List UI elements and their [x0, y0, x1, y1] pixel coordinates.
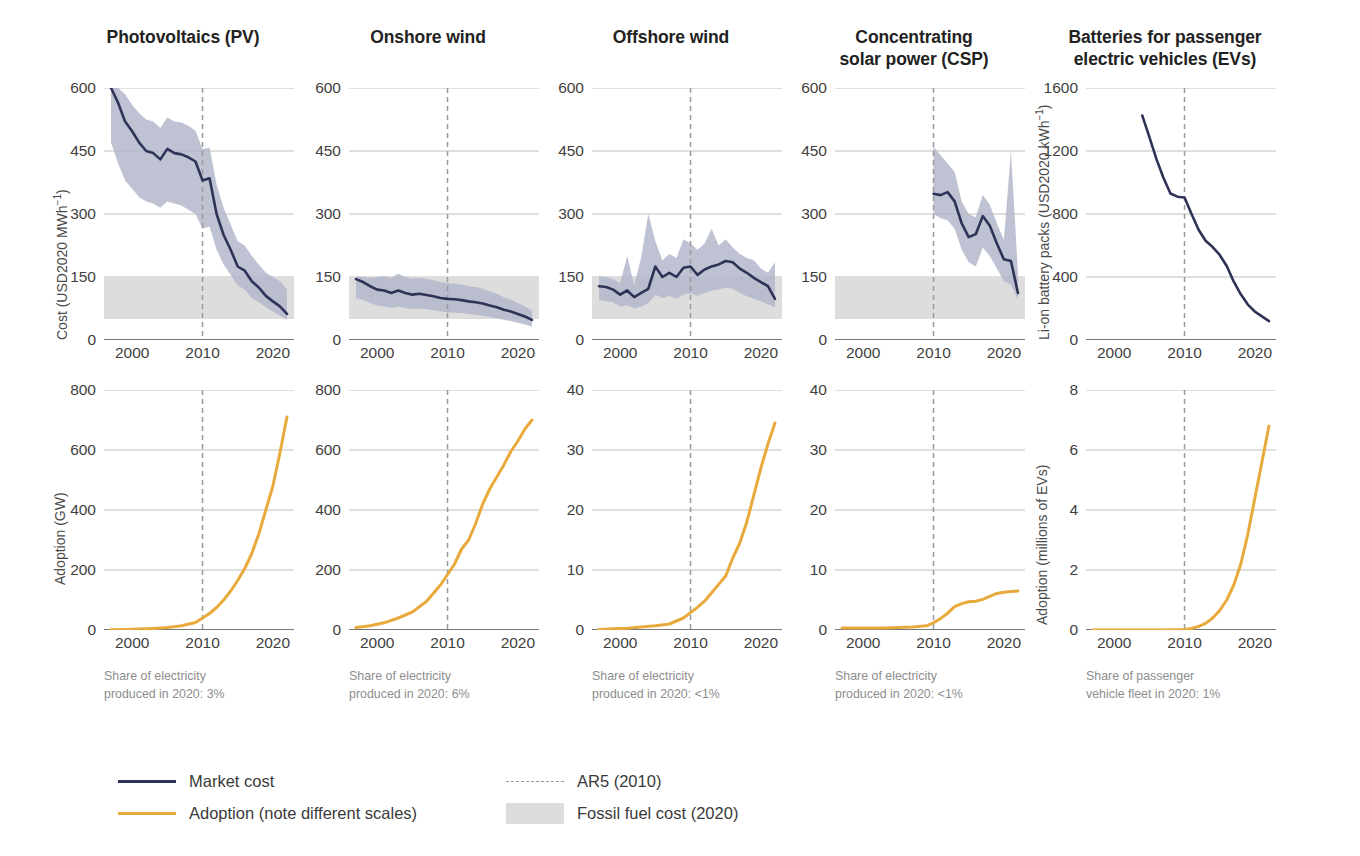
panel-column-pv: Photovoltaics (PV)0150300450600200020102…: [58, 0, 308, 760]
onshore-wind-adoption-plot: [349, 390, 539, 630]
x-tick-label: 2010: [916, 634, 950, 652]
pv-adoption-plot: [104, 390, 294, 630]
y-tick-label: 150: [315, 268, 341, 286]
x-tick-label: 2000: [360, 344, 394, 362]
cost-y-axis-label-ev-batteries: Li-on battery packs (USD2020 kWh−1): [1034, 104, 1052, 340]
csp-adoption-plot: [835, 390, 1025, 630]
y-tick-label: 450: [315, 142, 341, 160]
y-tick-label: 800: [70, 381, 96, 399]
panel-note-line1: Share of passenger: [1086, 668, 1296, 686]
x-tick-label: 2020: [744, 634, 778, 652]
adoption-x-ticks-ev-batteries: 200020102020: [1086, 634, 1276, 656]
y-tick-label: 30: [810, 441, 827, 459]
cost-chart-onshore-wind: [349, 88, 539, 340]
y-tick-label: 150: [558, 268, 584, 286]
cost-y-ticks-csp: 0150300450600: [789, 88, 831, 340]
y-tick-label: 20: [810, 501, 827, 519]
panel-column-offshore-wind: Offshore wind015030045060020002010202001…: [546, 0, 796, 760]
adoption-y-axis-label-ev-batteries: Adoption (millions of EVs): [1034, 465, 1050, 625]
y-tick-label: 600: [801, 79, 827, 97]
y-tick-label: 0: [575, 621, 584, 639]
y-tick-label: 0: [1069, 621, 1078, 639]
y-tick-label: 0: [87, 621, 96, 639]
legend-adoption: Adoption (note different scales): [118, 800, 417, 826]
x-tick-label: 2020: [987, 344, 1021, 362]
ev-batteries-cost-plot: [1086, 88, 1276, 340]
adoption-y-axis-label-pv: Adoption (GW): [52, 492, 68, 585]
panel-note-line2: produced in 2020: <1%: [835, 686, 1045, 704]
y-tick-label: 300: [801, 205, 827, 223]
y-tick-label: 450: [801, 142, 827, 160]
x-tick-label: 2000: [360, 634, 394, 652]
x-tick-label: 2020: [1238, 344, 1272, 362]
y-tick-label: 150: [801, 268, 827, 286]
x-tick-label: 2010: [673, 634, 707, 652]
x-tick-label: 2000: [1097, 634, 1131, 652]
y-tick-label: 0: [818, 331, 827, 349]
legend-ar5-swatch: [506, 781, 564, 782]
y-tick-label: 0: [87, 331, 96, 349]
x-tick-label: 2020: [256, 344, 290, 362]
panel-title-offshore-wind: Offshore wind: [546, 26, 796, 48]
csp-cost-plot: [835, 88, 1025, 340]
y-tick-label: 0: [818, 621, 827, 639]
adoption-chart-csp: [835, 390, 1025, 630]
y-tick-label: 30: [567, 441, 584, 459]
x-tick-label: 2020: [256, 634, 290, 652]
y-tick-label: 0: [575, 331, 584, 349]
x-tick-label: 2000: [603, 344, 637, 362]
panel-note-line2: vehicle fleet in 2020: 1%: [1086, 686, 1296, 704]
legend-ar5: AR5 (2010): [506, 768, 661, 794]
panel-note-csp: Share of electricityproduced in 2020: <1…: [835, 668, 1045, 704]
adoption-line: [356, 420, 532, 628]
y-tick-label: 2: [1069, 561, 1078, 579]
x-tick-label: 2020: [1238, 634, 1272, 652]
y-tick-label: 300: [558, 205, 584, 223]
fossil-fuel-cost-band: [835, 277, 1025, 319]
legend-market-cost-label: Market cost: [189, 772, 274, 791]
figure-legend: Market costAdoption (note different scal…: [118, 760, 818, 840]
legend-market-cost: Market cost: [118, 768, 274, 794]
y-tick-label: 1600: [1044, 79, 1078, 97]
y-tick-label: 300: [70, 205, 96, 223]
panel-title-onshore-wind: Onshore wind: [303, 26, 553, 48]
cost-chart-pv: [104, 88, 294, 340]
y-tick-label: 40: [567, 381, 584, 399]
y-tick-label: 150: [70, 268, 96, 286]
x-tick-label: 2010: [430, 344, 464, 362]
panel-note-line1: Share of electricity: [349, 668, 559, 686]
x-tick-label: 2020: [987, 634, 1021, 652]
market-cost-line: [1142, 116, 1269, 322]
x-tick-label: 2000: [115, 634, 149, 652]
x-tick-label: 2020: [744, 344, 778, 362]
x-tick-label: 2010: [1167, 344, 1201, 362]
panel-title-pv: Photovoltaics (PV): [58, 26, 308, 48]
legend-market-cost-swatch: [118, 780, 176, 783]
y-tick-label: 800: [315, 381, 341, 399]
ev-batteries-adoption-plot: [1086, 390, 1276, 630]
panel-note-line1: Share of electricity: [835, 668, 1045, 686]
offshore-wind-cost-plot: [592, 88, 782, 340]
panel-note-line1: Share of electricity: [592, 668, 802, 686]
y-tick-label: 600: [315, 441, 341, 459]
cost-y-axis-label-pv: Cost (USD2020 MWh−1): [52, 189, 70, 340]
legend-adoption-label: Adoption (note different scales): [189, 804, 417, 823]
cost-chart-ev-batteries: [1086, 88, 1276, 340]
adoption-x-ticks-csp: 200020102020: [835, 634, 1025, 656]
y-tick-label: 10: [567, 561, 584, 579]
adoption-y-ticks-offshore-wind: 010203040: [546, 390, 588, 630]
cost-x-ticks-pv: 200020102020: [104, 344, 294, 366]
y-tick-label: 200: [315, 561, 341, 579]
panel-note-onshore-wind: Share of electricityproduced in 2020: 6%: [349, 668, 559, 704]
y-tick-label: 400: [1052, 268, 1078, 286]
panel-note-line2: produced in 2020: 3%: [104, 686, 314, 704]
panel-title-ev-batteries: Batteries for passengerelectric vehicles…: [1040, 26, 1290, 71]
adoption-line: [599, 423, 775, 629]
adoption-y-ticks-onshore-wind: 0200400600800: [303, 390, 345, 630]
x-tick-label: 2000: [846, 344, 880, 362]
adoption-chart-ev-batteries: [1086, 390, 1276, 630]
cost-y-ticks-offshore-wind: 0150300450600: [546, 88, 588, 340]
y-tick-label: 600: [70, 441, 96, 459]
y-tick-label: 600: [315, 79, 341, 97]
cost-x-ticks-onshore-wind: 200020102020: [349, 344, 539, 366]
